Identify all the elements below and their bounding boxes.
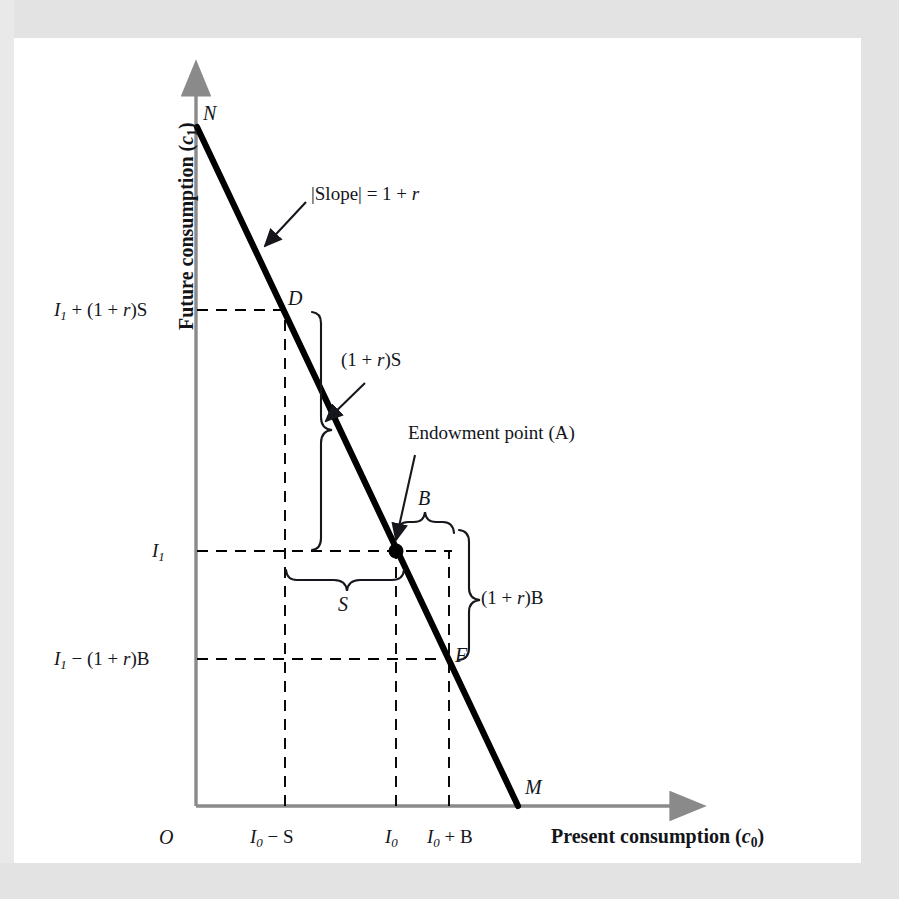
y-tick-label-mid: I1 [152, 541, 165, 564]
plot-canvas [0, 0, 899, 899]
borrowing-brace-label: B [418, 488, 430, 508]
point-label-D: D [288, 288, 302, 308]
y-axis-title: Future consumption (c1) [176, 122, 199, 330]
brace-saving-amount [286, 570, 404, 591]
figure-page: Future consumption (c1) Present consumpt… [0, 0, 899, 899]
y-tick-low-rest: − (1 + r)B [67, 648, 150, 669]
point-label-N: N [203, 103, 216, 123]
leader-endowment-arrow [396, 455, 415, 540]
x-tick-label-i0-plus-b: I0 + B [427, 827, 473, 850]
x-axis-title: Present consumption (c0) [551, 826, 764, 849]
endowment-point-dot [389, 544, 404, 559]
x-tick-label-i0: I0 [385, 827, 398, 850]
saving-brace-label: S [338, 594, 348, 614]
x-tick-i0-plus-b-rest: + B [440, 826, 473, 847]
slope-rate-var: r [412, 183, 419, 204]
y-tick-label-low: I1 − (1 + r)B [54, 649, 149, 672]
x-tick-i0-minus-s-rest: − S [263, 826, 294, 847]
future-value-borrowing-annotation: (1 + r)B [481, 588, 543, 607]
brace-future-value-saving [312, 312, 332, 550]
brace-future-value-borrowing [459, 530, 480, 660]
future-value-saving-annotation: (1 + r)S [341, 350, 401, 369]
slope-annotation: |Slope| = 1 + r [311, 184, 419, 203]
x-tick-label-i0-minus-s: I0 − S [250, 827, 294, 850]
leader-slope-arrow [265, 202, 306, 246]
x-axis-var: c [742, 825, 751, 847]
leader-future-value-saving-arrow [326, 383, 365, 421]
origin-label: O [159, 827, 173, 847]
point-label-M: M [525, 777, 542, 797]
y-axis-var-sub: 1 [185, 129, 200, 136]
point-label-F: F [455, 645, 467, 665]
budget-line-NM [197, 127, 518, 806]
y-tick-high-rest: + (1 + r)S [67, 299, 148, 320]
endowment-point-annotation: Endowment point (A) [408, 423, 575, 442]
y-tick-label-high: I1 + (1 + r)S [54, 300, 147, 323]
brace-borrowing-amount [397, 512, 454, 533]
y-axis-var: c [175, 136, 197, 145]
